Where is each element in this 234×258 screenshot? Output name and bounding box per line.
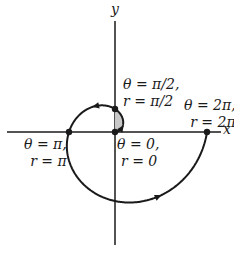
origin-dot	[112, 129, 118, 135]
label-half-pi-theta: θ = π/2,	[123, 76, 179, 93]
label-two-pi-r: r = 2π	[184, 114, 234, 131]
label-origin: θ = 0, r = 0	[117, 136, 159, 170]
label-two-pi-theta: θ = 2π,	[184, 97, 234, 114]
spiral-diagram: y x θ = π/2, r = π/2 θ = 2π, r = 2π θ = …	[0, 0, 234, 258]
label-origin-theta: θ = 0,	[117, 136, 159, 153]
arrowhead-icon	[154, 192, 163, 201]
pi-dot	[66, 129, 72, 135]
label-pi-theta: θ = π,	[24, 136, 67, 153]
label-origin-r: r = 0	[117, 153, 159, 170]
label-half-pi-r: r = π/2	[123, 93, 179, 110]
label-two-pi: θ = 2π, r = 2π	[184, 97, 234, 131]
y-axis-label: y	[111, 1, 119, 17]
label-pi-r: r = π	[24, 153, 67, 170]
label-pi: θ = π, r = π	[24, 136, 67, 170]
label-half-pi: θ = π/2, r = π/2	[123, 76, 179, 110]
half-pi-dot	[112, 106, 118, 112]
